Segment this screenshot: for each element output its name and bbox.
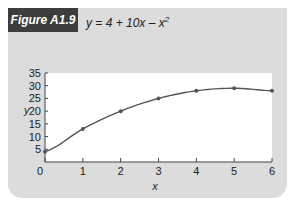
x-tick-label: 5 (231, 165, 237, 177)
x-tick-label: 0 (37, 165, 43, 177)
data-point (157, 96, 161, 100)
data-point (194, 89, 198, 93)
data-point (81, 127, 85, 131)
y-tick-label: 5 (35, 143, 41, 155)
y-tick-label: 25 (29, 92, 41, 104)
line-chart: 51015202530350123456 y x (0, 0, 291, 203)
y-tick-label: 20 (29, 105, 41, 117)
y-tick-label: 35 (29, 67, 41, 79)
x-tick-label: 3 (155, 165, 161, 177)
y-tick-label: 30 (29, 80, 41, 92)
y-tick-label: 10 (29, 131, 41, 143)
data-point (119, 109, 123, 113)
x-tick-label: 4 (193, 165, 199, 177)
y-tick-label: 15 (29, 118, 41, 130)
x-axis-title: x (151, 180, 158, 192)
data-point (232, 86, 236, 90)
data-point (43, 150, 47, 154)
plot-area (45, 73, 272, 162)
data-point (270, 89, 274, 93)
x-tick-label: 6 (269, 165, 275, 177)
x-tick-label: 2 (118, 165, 124, 177)
x-tick-label: 1 (80, 165, 86, 177)
